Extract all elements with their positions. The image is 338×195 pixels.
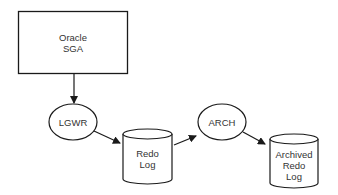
- sga-label: Oracle SGA: [18, 32, 128, 54]
- arrow-redo-to-arch: [174, 136, 196, 145]
- lgwr-label: LGWR: [49, 117, 97, 128]
- archived-redo-log-label: Archived Redo Log: [270, 149, 318, 182]
- arrow-lgwr-to-redo: [94, 131, 120, 143]
- arrow-arch-to-archived: [243, 132, 265, 144]
- redo-log-label: Redo Log: [123, 148, 172, 170]
- arch-label: ARCH: [198, 117, 246, 128]
